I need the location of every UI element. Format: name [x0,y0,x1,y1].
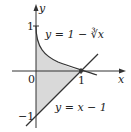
origin-label: 0 [28,73,35,86]
diagram: y x 0 1 1 −1 y = 1 − ∛x y = x − 1 [0,0,131,132]
curve-label: y = 1 − ∛x [44,27,105,41]
y-tick-1-label: 1 [27,20,34,33]
y-tick-neg1-label: −1 [18,110,34,123]
x-axis-label: x [118,73,125,86]
intersection-point [79,69,83,73]
x-tick-1-label: 1 [78,74,85,87]
line-label: y = x − 1 [54,101,107,114]
y-axis-arrow-icon [34,4,39,11]
y-axis-label: y [38,2,46,15]
